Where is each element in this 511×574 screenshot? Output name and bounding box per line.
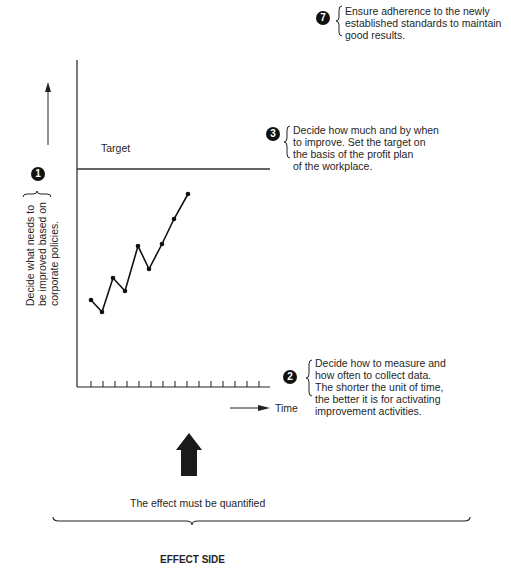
- step1-note: Decide what needs to be improved based o…: [24, 202, 60, 306]
- step-number-7: 7: [316, 11, 330, 25]
- step7-note: Ensure adherence to the newly establishe…: [345, 5, 501, 41]
- step-number-3: 3: [266, 127, 280, 141]
- brace-step2: [306, 360, 312, 396]
- x-axis-ticks: [91, 381, 259, 387]
- step3-line: the basis of the profit plan: [293, 148, 439, 160]
- brace-step3: [284, 126, 290, 158]
- step3-line: Decide how much and by when: [293, 124, 439, 136]
- big-up-arrow-icon: [176, 433, 202, 476]
- step1-line: corporate policies.: [48, 202, 60, 306]
- step2-note: Decide how to measure and how often to c…: [315, 357, 446, 417]
- step2-line: improvement activities.: [315, 405, 446, 417]
- step1-line: be improved based on: [36, 202, 48, 306]
- brace-step7: [336, 6, 342, 36]
- up-arrow-icon: [45, 82, 51, 145]
- step2-line: Decide how to measure and: [315, 357, 446, 369]
- step3-line: of the workplace.: [293, 160, 439, 172]
- diagram-canvas: [0, 0, 511, 574]
- step7-line: Ensure adherence to the newly: [345, 5, 501, 17]
- section-title: EFFECT SIDE: [160, 554, 225, 565]
- time-arrow-icon: [230, 405, 270, 411]
- time-label: Time: [275, 402, 298, 414]
- step7-line: established standards to maintain: [345, 17, 501, 29]
- step2-line: the better it is for activating: [315, 393, 446, 405]
- step2-line: how often to collect data.: [315, 369, 446, 381]
- data-points: [89, 192, 191, 315]
- step-number-1: 1: [31, 167, 45, 181]
- effect-caption: The effect must be quantified: [130, 497, 265, 509]
- step3-line: to improve. Set the target on: [293, 136, 439, 148]
- brace-effect-side: [53, 517, 470, 525]
- step-number-2: 2: [283, 370, 297, 384]
- effect-data-line: [91, 194, 188, 312]
- target-label: Target: [101, 142, 130, 154]
- step2-line: The shorter the unit of time,: [315, 381, 446, 393]
- brace-step1: [23, 191, 51, 197]
- step1-line: Decide what needs to: [24, 202, 36, 306]
- step7-line: good results.: [345, 29, 501, 41]
- step3-note: Decide how much and by when to improve. …: [293, 124, 439, 172]
